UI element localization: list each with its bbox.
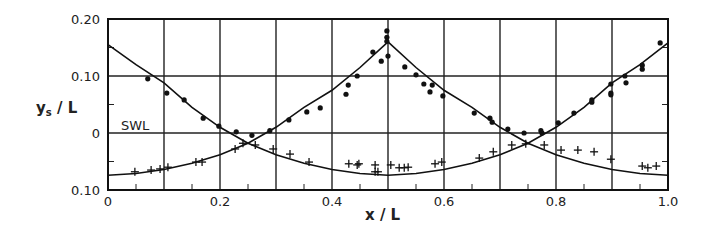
- y-axis-title: ys / L: [36, 99, 78, 118]
- dot-marker: [346, 83, 351, 88]
- cross-marker: [286, 150, 294, 158]
- x-tick-label: 0.8: [546, 194, 567, 209]
- x-tick-label: 0: [104, 194, 112, 209]
- cross-marker: [540, 141, 548, 149]
- dot-marker: [571, 110, 576, 115]
- dot-marker: [521, 130, 526, 135]
- dot-marker: [623, 80, 628, 85]
- cross-marker: [489, 148, 497, 156]
- cross-marker: [557, 146, 565, 154]
- cross-marker: [156, 165, 164, 173]
- dot-marker: [640, 67, 645, 72]
- cross-marker: [644, 164, 652, 172]
- dot-marker: [589, 100, 594, 105]
- x-tick-label: 0.2: [210, 194, 231, 209]
- cross-marker: [353, 161, 361, 169]
- cross-marker: [147, 166, 155, 174]
- cross-marker: [345, 160, 353, 168]
- x-tick-label: 0.4: [322, 194, 343, 209]
- dot-marker: [379, 59, 384, 64]
- dot-marker: [182, 97, 187, 102]
- cross-marker: [607, 155, 615, 163]
- dot-marker: [556, 120, 561, 125]
- dot-marker: [622, 73, 627, 78]
- cross-marker: [652, 162, 660, 170]
- dot-marker: [490, 120, 495, 125]
- y-axis-title-rest: / L: [52, 99, 78, 117]
- dot-marker: [355, 73, 360, 78]
- dot-marker: [384, 28, 389, 33]
- dot-marker: [318, 105, 323, 110]
- dot-marker: [249, 133, 254, 138]
- cross-marker: [131, 168, 139, 176]
- cross-marker: [404, 163, 412, 171]
- dot-marker: [370, 49, 375, 54]
- dot-marker: [145, 76, 150, 81]
- dot-marker: [427, 89, 432, 94]
- dot-marker: [658, 40, 663, 45]
- cross-marker: [371, 161, 379, 169]
- x-axis-title: x / L: [365, 206, 401, 224]
- y-tick-label: 0.10: [71, 183, 100, 198]
- cross-marker: [508, 141, 516, 149]
- dot-marker: [286, 117, 291, 122]
- dot-marker: [402, 64, 407, 69]
- dot-marker: [430, 83, 435, 88]
- y-tick-label: 0.20: [71, 12, 100, 27]
- y-tick-label: 0.10: [71, 69, 100, 84]
- scatter-chart: 00.20.40.60.81.0 0.200.1000.10 SWL ys / …: [0, 0, 704, 233]
- cross-marker: [638, 162, 646, 170]
- dot-marker: [440, 93, 445, 98]
- y-tick-label: 0: [92, 126, 100, 141]
- dot-marker: [164, 91, 169, 96]
- swl-label: SWL: [121, 118, 150, 133]
- dot-marker: [539, 130, 544, 135]
- dot-marker: [608, 92, 613, 97]
- cross-marker: [231, 145, 239, 153]
- dot-marker: [384, 39, 389, 44]
- dot-marker: [421, 81, 426, 86]
- cross-marker: [355, 160, 363, 168]
- x-tick-label: 1.0: [658, 194, 679, 209]
- dot-marker: [201, 116, 206, 121]
- dot-marker: [608, 81, 613, 86]
- y-axis-title-text: y: [36, 99, 46, 117]
- dot-marker: [343, 92, 348, 97]
- dot-marker: [234, 129, 239, 134]
- dot-marker: [216, 124, 221, 129]
- cross-marker: [574, 146, 582, 154]
- dot-marker: [413, 72, 418, 77]
- dot-marker: [472, 110, 477, 115]
- dot-marker: [267, 128, 272, 133]
- x-tick-label: 0.6: [434, 194, 455, 209]
- cross-marker: [590, 148, 598, 156]
- dot-marker: [505, 126, 510, 131]
- dot-marker: [304, 109, 309, 114]
- dot-marker: [385, 53, 390, 58]
- cross-marker: [431, 160, 439, 168]
